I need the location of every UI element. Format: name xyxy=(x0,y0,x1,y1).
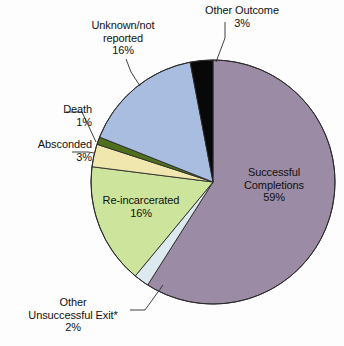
slice-label-unknown-value: 16% xyxy=(62,44,184,57)
slice-label-other-outcome-name: Other Outcome xyxy=(182,4,302,17)
slice-label-unknown: Unknown/not reported 16% xyxy=(62,19,184,57)
slice-label-reincarcerated-name: Re-incarcerated xyxy=(86,194,196,207)
slice-label-unknown-name-line1: Unknown/not xyxy=(62,19,184,32)
slice-label-death-value: 1% xyxy=(2,116,92,129)
slice-label-absconded-value: 3% xyxy=(2,151,92,164)
slice-label-other-unsuccessful-value: 2% xyxy=(8,321,138,334)
slice-label-unknown-name-line2: reported xyxy=(62,32,184,45)
slice-label-death-name: Death xyxy=(2,103,92,116)
slice-label-other-unsuccessful-name-line1: Other xyxy=(8,296,138,309)
slice-label-successful-completions-name-line1: Successful xyxy=(222,166,326,179)
leader-line-unknown xyxy=(126,59,140,86)
slice-label-other-outcome-value: 3% xyxy=(182,17,302,30)
slice-label-other-unsuccessful: Other Unsuccessful Exit* 2% xyxy=(8,296,138,334)
slice-label-successful-completions-value: 59% xyxy=(222,191,326,204)
slice-label-death: Death 1% xyxy=(2,103,92,128)
slice-label-other-outcome: Other Outcome 3% xyxy=(182,4,302,29)
slice-label-successful-completions: Successful Completions 59% xyxy=(222,166,326,204)
slice-label-absconded: Absconded 3% xyxy=(2,138,92,163)
slice-label-reincarcerated: Re-incarcerated 16% xyxy=(86,194,196,219)
slice-label-reincarcerated-value: 16% xyxy=(86,207,196,220)
slice-label-successful-completions-name-line2: Completions xyxy=(222,179,326,192)
slice-label-absconded-name: Absconded xyxy=(2,138,92,151)
pie-chart: Other Outcome 3% Unknown/not reported 16… xyxy=(0,0,344,346)
slice-label-other-unsuccessful-name-line2: Unsuccessful Exit* xyxy=(8,309,138,322)
